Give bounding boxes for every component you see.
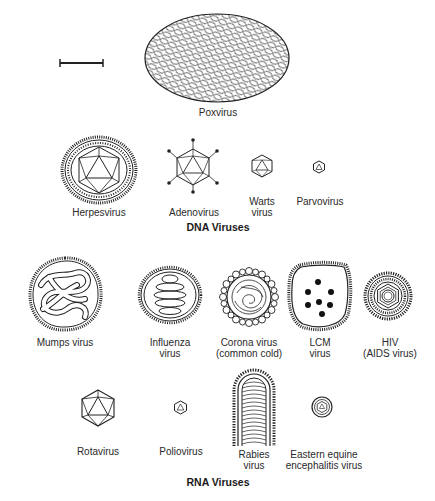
hiv-illustration — [363, 271, 413, 321]
influenza-virus-label: Influenza virus — [135, 337, 205, 359]
poxvirus-illustration — [143, 12, 291, 104]
poxvirus-label: Poxvirus — [178, 107, 258, 118]
lcm-virus-illustration — [286, 259, 354, 333]
corona-virus-illustration — [219, 267, 279, 327]
rotavirus-illustration — [78, 388, 118, 428]
rabies-virus-illustration — [232, 368, 276, 446]
warts-virus-label: Warts virus — [237, 196, 287, 218]
influenza-virus-illustration — [137, 265, 203, 325]
eastern-equine-encephalitis-virus-illustration — [311, 396, 333, 418]
mumps-virus-label: Mumps virus — [25, 337, 105, 348]
rotavirus-label: Rotavirus — [63, 446, 133, 457]
lcm-virus-label: LCM virus — [290, 337, 350, 359]
warts-virus-illustration — [249, 153, 275, 179]
hiv-label: HIV (AIDS virus) — [355, 337, 425, 359]
herpesvirus-label: Herpesvirus — [60, 207, 138, 218]
parvovirus-label: Parvovirus — [285, 196, 355, 207]
poliovirus-illustration — [173, 400, 188, 415]
rabies-virus-label: Rabies virus — [224, 449, 284, 471]
rna-viruses-header: RNA Viruses — [168, 476, 268, 488]
herpesvirus-illustration — [60, 135, 138, 205]
mumps-virus-illustration — [27, 255, 104, 333]
poliovirus-label: Poliovirus — [148, 446, 214, 457]
adenovirus-label: Adenovirus — [155, 207, 233, 218]
adenovirus-illustration — [165, 137, 221, 195]
scale-bar — [58, 58, 106, 68]
eastern-equine-encephalitis-virus-label: Eastern equine encephalitis virus — [276, 449, 372, 471]
corona-virus-label: Corona virus (common cold) — [205, 337, 293, 359]
dna-viruses-header: DNA Viruses — [168, 221, 268, 233]
parvovirus-illustration — [312, 160, 326, 174]
